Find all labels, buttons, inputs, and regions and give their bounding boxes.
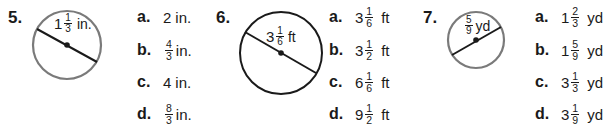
problem-7-circle-figure <box>0 0 616 133</box>
fraction: 5 9 <box>571 39 579 62</box>
problem-7-diameter-label: 5 9 yd <box>463 15 490 36</box>
fraction: 2 3 <box>571 6 579 29</box>
fraction: 5 9 <box>465 15 473 36</box>
problem-7-option-d[interactable]: d. 3 1 9 yd <box>535 101 603 127</box>
problem-7-option-c[interactable]: c. 3 1 3 yd <box>535 69 603 95</box>
problem-7-option-b[interactable]: b. 1 5 9 yd <box>535 37 603 63</box>
problem-7-option-a[interactable]: a. 1 2 3 yd <box>535 4 603 30</box>
fraction: 1 9 <box>571 103 579 126</box>
fraction: 1 3 <box>571 71 579 94</box>
